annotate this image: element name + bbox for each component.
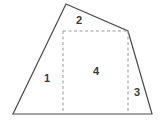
region-label-3: 3 (134, 87, 140, 98)
region-label-4: 4 (93, 66, 99, 77)
region-label-2: 2 (76, 15, 82, 26)
quadrilateral-outline (13, 4, 152, 114)
geometry-figure: 1 2 3 4 (0, 0, 162, 125)
region-label-1: 1 (44, 73, 50, 84)
